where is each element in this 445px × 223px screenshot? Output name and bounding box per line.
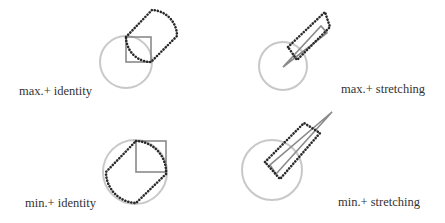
panel-min-identity	[103, 140, 167, 204]
panel-max-stretching	[259, 12, 330, 90]
panel-max-identity	[100, 10, 177, 88]
dotted-result-shape	[265, 123, 320, 179]
panel-label-min-identity: min.+ identity	[25, 196, 96, 210]
panel-min-stretching	[242, 112, 332, 200]
panel-label-min-stretching: min.+ stretching	[338, 195, 420, 209]
panel-label-max-identity: max.+ identity	[19, 84, 92, 98]
diagram-canvas	[0, 0, 445, 223]
morphology-diagram: max.+ identity max.+ stretching min.+ id…	[0, 0, 445, 223]
panel-label-max-stretching: max.+ stretching	[341, 82, 425, 96]
